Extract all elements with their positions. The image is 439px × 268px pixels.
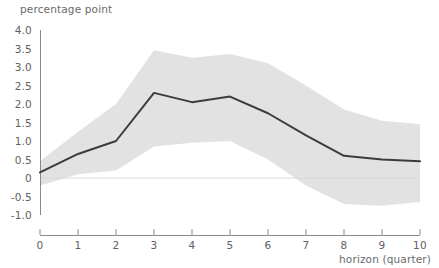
confidence-band (40, 50, 420, 205)
y-tick-label: 2.0 (2, 98, 32, 110)
x-axis-title: horizon (quarter) (339, 253, 431, 265)
x-tick-label: 6 (258, 239, 278, 251)
y-tick-label: 1.0 (2, 135, 32, 147)
axis-tick-marks (40, 229, 420, 235)
x-tick-label: 8 (334, 239, 354, 251)
y-tick-label: 2.5 (2, 80, 32, 92)
x-tick-label: 9 (372, 239, 392, 251)
x-tick-label: 10 (410, 239, 430, 251)
y-tick-label: 1.5 (2, 117, 32, 129)
y-tick-label: 3.5 (2, 43, 32, 55)
x-tick-label: 2 (106, 239, 126, 251)
x-tick-label: 7 (296, 239, 316, 251)
y-tick-label: -1.0 (2, 209, 32, 221)
y-tick-label: -0.5 (2, 191, 32, 203)
y-tick-label: 0.5 (2, 154, 32, 166)
x-tick-label: 4 (182, 239, 202, 251)
plot-canvas (0, 0, 439, 268)
x-tick-label: 0 (30, 239, 50, 251)
y-tick-label: 3.0 (2, 61, 32, 73)
y-tick-label: 4.0 (2, 24, 32, 36)
x-tick-label: 5 (220, 239, 240, 251)
impulse-response-chart: percentage point 4.03.53.02.52.01.51.00.… (0, 0, 439, 268)
y-tick-label: 0 (2, 172, 32, 184)
x-tick-label: 1 (68, 239, 88, 251)
x-tick-label: 3 (144, 239, 164, 251)
